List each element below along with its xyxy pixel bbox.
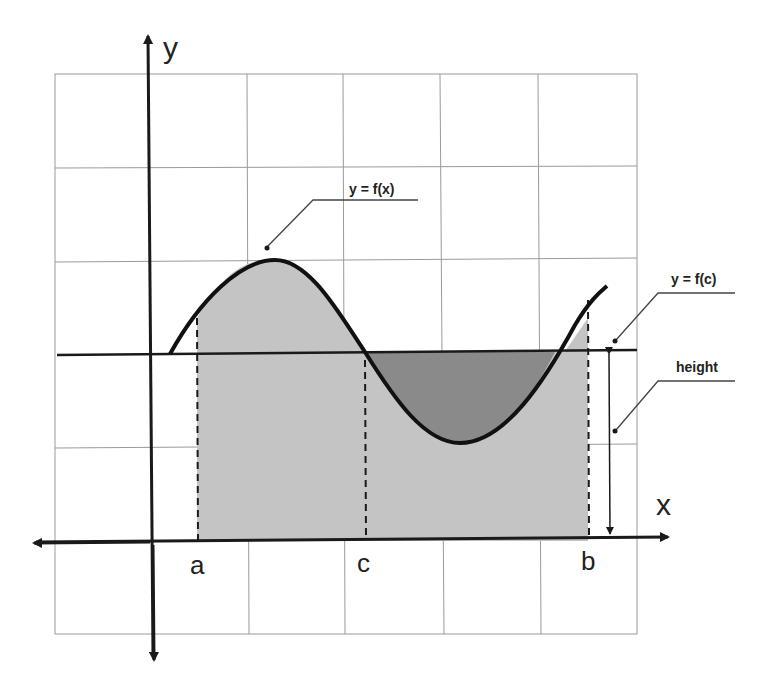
x-axis-neg [34,542,150,543]
mean-value-callout: y = f(c) [671,271,717,287]
height-callout: height [676,359,718,375]
mvt-diagram: y x a c b y = f(x) y = f(c) height [0,0,767,687]
point-a-label: a [190,550,205,580]
y-axis-neg [153,545,154,660]
height-arrow [609,354,610,534]
x-axis-label: x [656,488,671,521]
area-under-curve [197,260,588,541]
y-axis-label: y [163,31,178,64]
point-c-label: c [357,548,370,578]
point-b-label: b [581,546,595,576]
function-callout: y = f(x) [349,181,395,197]
